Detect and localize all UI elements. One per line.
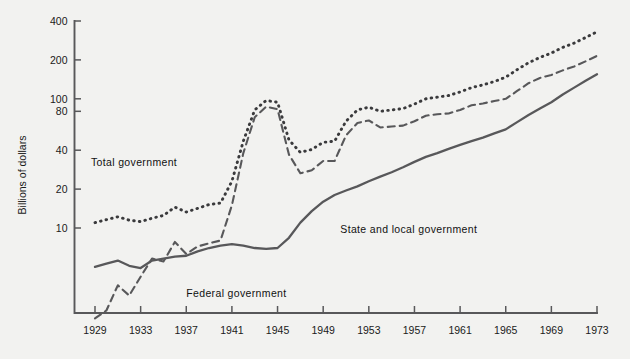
x-axis-tick-label: 1965 [494,324,518,336]
line-chart: 10204080100200400 1929193319371941194519… [0,0,630,359]
x-axis-tick-label: 1949 [312,324,336,336]
series-label-total-government: Total government [91,156,177,168]
chart-container: 10204080100200400 1929193319371941194519… [0,0,630,359]
y-axis-title: Billions of dollars [16,136,28,215]
x-axis-tick-label: 1941 [220,324,244,336]
y-axis-ticks: 10204080100200400 [50,15,81,234]
series-line-dotted [95,32,597,223]
series-label-state-and-local-government: State and local government [340,223,477,235]
series-annotations: Total governmentFederal governmentState … [91,156,477,299]
x-axis-tick-label: 1945 [266,324,290,336]
data-series-group [95,32,597,319]
x-axis-ticks: 1929193319371941194519491953195719611965… [83,306,609,336]
x-axis-tick-label: 1969 [540,324,564,336]
y-axis-tick-label: 100 [50,93,68,105]
y-axis-tick-label: 20 [56,183,68,195]
x-axis-tick-label: 1929 [83,324,107,336]
x-axis-tick-label: 1961 [448,324,472,336]
x-axis-tick-label: 1953 [357,324,381,336]
series-line-solid [95,74,597,268]
y-axis-tick-label: 40 [56,144,68,156]
y-axis-tick-label: 80 [56,105,68,117]
y-axis-tick-label: 10 [56,222,68,234]
y-axis-tick-label: 200 [50,54,68,66]
series-line-dashed [95,56,597,318]
x-axis-tick-label: 1957 [403,324,427,336]
x-axis-tick-label: 1937 [175,324,199,336]
y-axis-tick-label: 400 [50,15,68,27]
x-axis-tick-label: 1973 [585,324,609,336]
x-axis-tick-label: 1933 [129,324,153,336]
series-label-federal-government: Federal government [186,287,286,299]
